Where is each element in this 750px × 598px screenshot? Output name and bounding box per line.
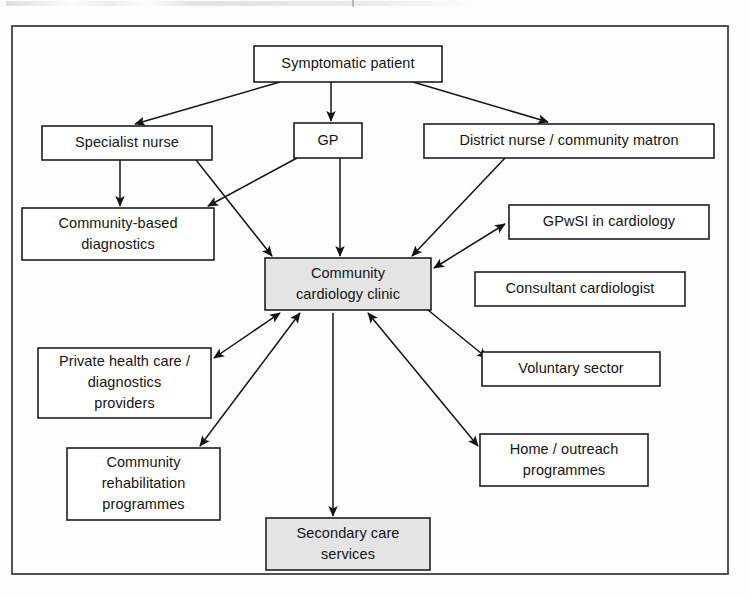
node-label-line: Symptomatic patient	[281, 55, 414, 71]
node-label-line: Community-based	[58, 214, 177, 230]
edge-patient-to-specialist-nurse	[135, 82, 280, 124]
node-label-line: District nurse / community matron	[459, 132, 678, 148]
node-label-line: GP	[317, 131, 338, 147]
node-voluntary-sector[interactable]: Voluntary sector	[482, 352, 660, 386]
node-layer: Symptomatic patientSpecialist nurseGPDis…	[22, 46, 714, 570]
node-label-line: Community	[106, 454, 181, 470]
node-label-gp: GP	[317, 131, 338, 147]
node-label-line: rehabilitation	[102, 475, 186, 491]
edge-gp-to-diagnostics	[208, 158, 297, 206]
node-label-community-rehabilitation: Communityrehabilitationprogrammes	[102, 454, 186, 512]
node-label-line: Secondary care	[297, 524, 400, 540]
node-label-line: providers	[94, 395, 155, 411]
node-label-district-nurse: District nurse / community matron	[459, 132, 678, 148]
node-label-line: Specialist nurse	[75, 134, 179, 150]
node-label-line: services	[321, 545, 375, 561]
node-label-line: Community	[311, 264, 386, 280]
edge-clinic-to-gpwsi	[434, 224, 505, 268]
node-community-rehabilitation[interactable]: Communityrehabilitationprogrammes	[67, 448, 220, 520]
node-community-based-diagnostics[interactable]: Community-baseddiagnostics	[22, 208, 214, 260]
node-community-cardiology-clinic[interactable]: Communitycardiology clinic	[265, 258, 431, 310]
node-label-line: GPwSI in cardiology	[543, 213, 676, 229]
node-label-line: programmes	[523, 461, 605, 477]
node-label-line: Home / outreach	[510, 440, 619, 456]
node-label-line: programmes	[102, 496, 184, 512]
node-label-specialist-nurse: Specialist nurse	[75, 134, 179, 150]
node-label-symptomatic-patient: Symptomatic patient	[281, 55, 414, 71]
edge-clinic-to-voluntary-sector	[428, 310, 487, 358]
node-secondary-care-services[interactable]: Secondary careservices	[266, 518, 430, 570]
node-gp[interactable]: GP	[294, 123, 362, 158]
node-label-gpwsi-in-cardiology: GPwSI in cardiology	[543, 213, 676, 229]
node-label-line: cardiology clinic	[296, 285, 400, 301]
node-label-line: Consultant cardiologist	[506, 280, 655, 296]
node-gpwsi-in-cardiology[interactable]: GPwSI in cardiology	[509, 205, 709, 239]
node-label-line: Private health care /	[59, 353, 191, 369]
node-private-health-care[interactable]: Private health care /diagnosticsprovider…	[38, 348, 211, 418]
node-label-voluntary-sector: Voluntary sector	[518, 360, 624, 376]
edge-clinic-to-home-outreach	[368, 313, 478, 446]
edge-patient-to-district-nurse	[413, 82, 548, 122]
node-label-line: Voluntary sector	[518, 360, 624, 376]
node-label-consultant-cardiologist: Consultant cardiologist	[506, 280, 655, 296]
node-specialist-nurse[interactable]: Specialist nurse	[42, 126, 212, 160]
node-home-outreach-programmes[interactable]: Home / outreachprogrammes	[480, 434, 648, 486]
node-consultant-cardiologist[interactable]: Consultant cardiologist	[475, 272, 685, 306]
edge-clinic-to-private-health-care	[214, 313, 280, 358]
node-label-line: diagnostics	[81, 235, 155, 251]
node-district-nurse[interactable]: District nurse / community matron	[424, 124, 714, 158]
figure-root: Symptomatic patientSpecialist nurseGPDis…	[0, 0, 750, 598]
node-symptomatic-patient[interactable]: Symptomatic patient	[254, 46, 442, 82]
flowchart-canvas: Symptomatic patientSpecialist nurseGPDis…	[0, 0, 750, 598]
node-label-line: diagnostics	[88, 374, 162, 390]
edge-district-nurse-to-clinic	[412, 158, 505, 256]
